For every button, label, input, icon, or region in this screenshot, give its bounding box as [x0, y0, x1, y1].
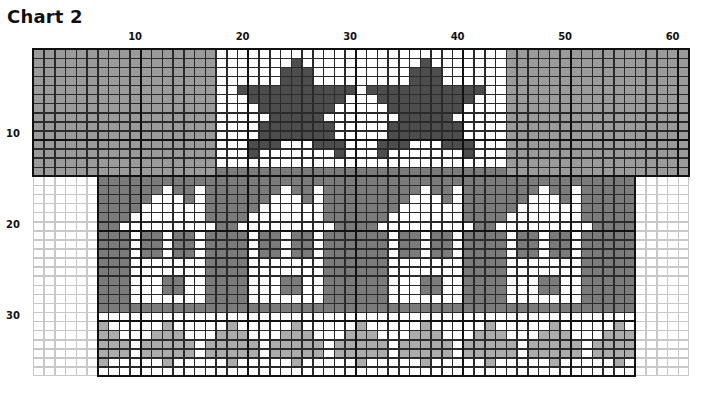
column-number-label: 30 [338, 31, 362, 42]
column-number-label: 50 [553, 31, 577, 42]
empty-cell [44, 367, 55, 377]
row-number-label: 30 [6, 310, 28, 321]
empty-cell [678, 367, 689, 377]
column-number-label: 40 [446, 31, 470, 42]
ten-column-line [570, 176, 572, 376]
block-border [97, 175, 99, 377]
ten-column-line [677, 49, 679, 176]
empty-cell [76, 367, 87, 377]
column-number-label: 10 [123, 31, 147, 42]
row-number-label: 20 [6, 219, 28, 230]
block-border [32, 48, 34, 177]
chart-title: Chart 2 [7, 6, 83, 27]
block-border [634, 175, 636, 377]
empty-cell [667, 367, 678, 377]
ten-column-line [247, 49, 249, 176]
empty-cell [657, 367, 668, 377]
block-border [97, 175, 637, 177]
ten-column-line [355, 49, 357, 176]
ten-row-line [98, 320, 636, 322]
empty-cell [65, 367, 76, 377]
empty-cell [635, 367, 646, 377]
row-number-label: 10 [6, 128, 28, 139]
block-border [97, 375, 637, 377]
ten-row-line [33, 139, 689, 141]
column-number-label: 20 [231, 31, 255, 42]
column-number-label: 60 [661, 31, 685, 42]
ten-column-line [140, 176, 142, 376]
empty-cell [33, 367, 44, 377]
ten-column-line [462, 49, 464, 176]
block-border [688, 48, 690, 177]
empty-cell [646, 367, 657, 377]
block-border [32, 48, 690, 50]
ten-column-line [247, 176, 249, 376]
ten-row-line [98, 230, 636, 232]
empty-cell [55, 367, 66, 377]
ten-column-line [140, 49, 142, 176]
ten-column-line [570, 49, 572, 176]
ten-column-line [355, 176, 357, 376]
ten-column-line [462, 176, 464, 376]
